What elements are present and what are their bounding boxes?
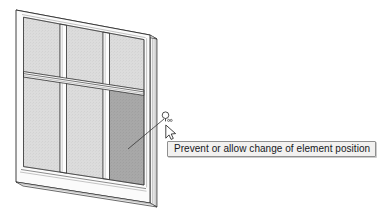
curtain-wall-model[interactable]: [0, 0, 381, 222]
panel-r1-c3[interactable]: [110, 33, 145, 90]
pin-icon[interactable]: [162, 112, 172, 122]
tooltip: Prevent or allow change of element posit…: [167, 141, 376, 157]
tooltip-text: Prevent or allow change of element posit…: [174, 144, 370, 154]
panel-r1-c2[interactable]: [67, 25, 104, 83]
panel-r2-c3-selected[interactable]: [110, 90, 145, 185]
mullion-vertical-2[interactable]: [103, 32, 110, 180]
cad-viewport[interactable]: Prevent or allow change of element posit…: [0, 0, 381, 222]
arrow-cursor-icon: [166, 125, 176, 139]
mullion-vertical-1[interactable]: [60, 24, 67, 173]
panel-r2-c2[interactable]: [67, 84, 104, 179]
panel-r2-c1[interactable]: [24, 77, 61, 172]
wall-right-edge-face: [150, 35, 157, 207]
panel-r1-c1[interactable]: [24, 17, 61, 77]
